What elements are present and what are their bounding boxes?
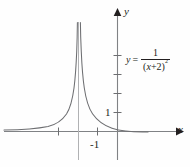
equation-denominator: (x+2)2: [141, 60, 170, 72]
curve-right-branch: [80, 23, 148, 132]
y-axis-label: y: [124, 6, 129, 17]
equation-fraction: 1 (x+2)2: [141, 48, 170, 72]
equation-numerator: 1: [150, 48, 161, 59]
y-tick-label-one: 1: [105, 107, 111, 118]
equation-lhs: y: [126, 55, 130, 65]
equation-equals-sign: =: [132, 55, 138, 65]
y-axis: [114, 8, 122, 160]
curve-left-branch: [4, 23, 77, 131]
equation-annotation: y = 1 (x+2)2: [126, 48, 170, 72]
function-graph-figure: y x -1 1 y = 1 (x+2)2: [0, 0, 190, 167]
equation-exponent: 2: [165, 58, 168, 64]
x-tick-label-negative-one: -1: [90, 139, 99, 150]
x-axis-label: x: [178, 124, 183, 135]
